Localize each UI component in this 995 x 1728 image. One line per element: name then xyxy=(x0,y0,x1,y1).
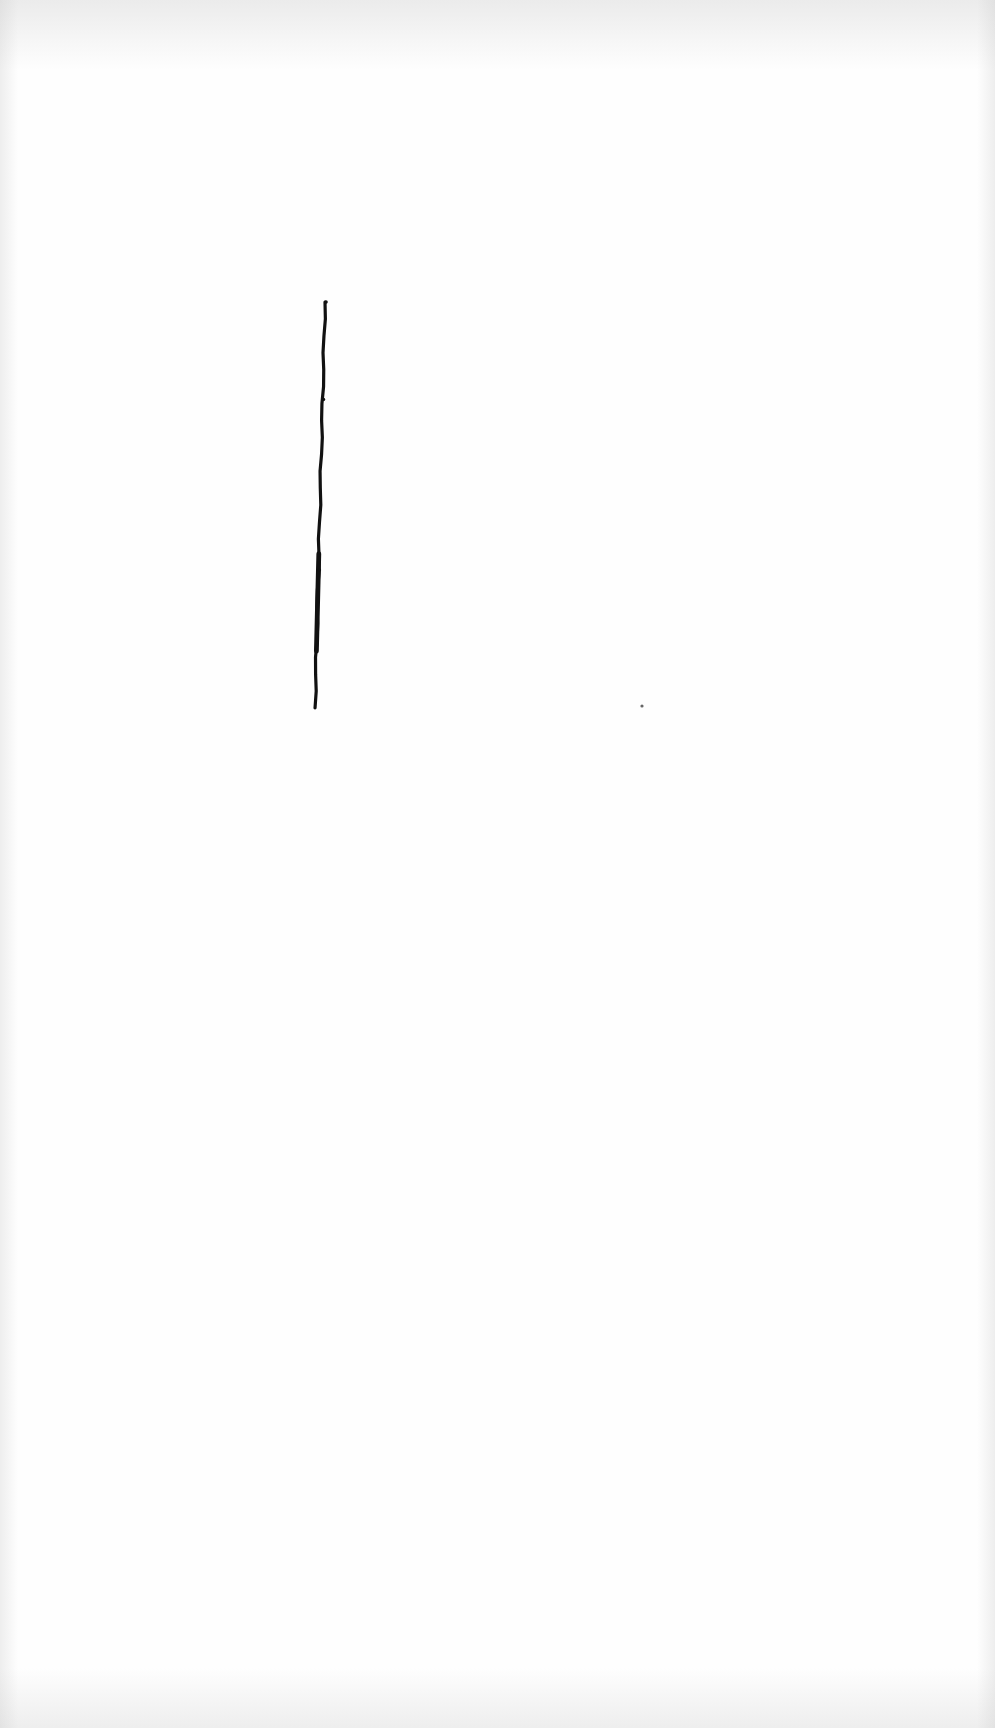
ink-blob xyxy=(324,300,328,304)
ink-blob xyxy=(318,568,321,571)
paper-speck xyxy=(640,704,643,707)
ink-drawing xyxy=(0,0,995,1728)
blank-scanned-page xyxy=(0,0,995,1728)
ink-blob xyxy=(322,398,325,401)
ink-line-texture xyxy=(316,554,318,651)
